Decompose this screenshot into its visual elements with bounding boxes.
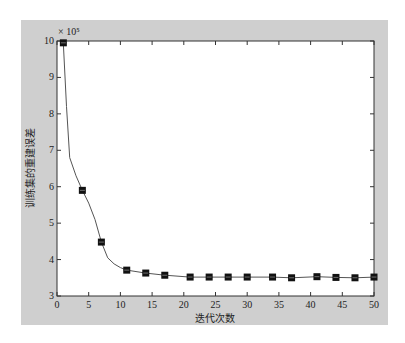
x-tick-label: 50 [369, 299, 379, 310]
y-tick-label: 6 [49, 181, 54, 192]
x-tick-label: 5 [86, 299, 91, 310]
x-tick-label: 20 [179, 299, 189, 310]
y-multiplier-label: × 10⁵ [58, 26, 80, 37]
y-tick-label: 8 [49, 108, 54, 119]
x-tick-label: 25 [211, 299, 221, 310]
x-tick-label: 45 [337, 299, 347, 310]
x-tick-label: 0 [55, 299, 60, 310]
x-tick-label: 30 [242, 299, 252, 310]
x-tick-label: 10 [115, 299, 125, 310]
x-axis-title: 迭代次数 [195, 312, 235, 324]
y-tick-label: 5 [49, 217, 54, 228]
line-chart: 05101520253035404550 345678910 × 10⁵ 迭代次… [0, 0, 405, 343]
y-tick-label: 4 [49, 254, 54, 265]
y-tick-label: 7 [49, 144, 54, 155]
y-axis-title: 训练集的重建误差 [24, 128, 36, 208]
x-tick-label: 35 [274, 299, 284, 310]
y-tick-label: 3 [49, 290, 54, 301]
y-tick-label: 9 [49, 71, 54, 82]
y-tick-label: 10 [44, 35, 54, 46]
plot-area [57, 41, 374, 296]
x-tick-label: 15 [147, 299, 157, 310]
x-tick-label: 40 [306, 299, 316, 310]
